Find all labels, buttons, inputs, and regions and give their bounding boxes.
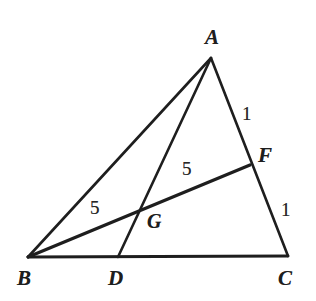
vertex-label-a: A	[205, 27, 219, 48]
measure-label-gf: 5	[182, 159, 192, 178]
measure-label-bg: 5	[90, 198, 100, 217]
segment-bc	[28, 256, 288, 257]
geometry-figure: A B C D F G 5 5 1 1	[0, 0, 316, 301]
vertex-label-b: B	[17, 268, 31, 289]
segment-ad-cevian	[118, 58, 211, 257]
vertex-label-c: C	[278, 268, 292, 289]
point-label-d: D	[108, 268, 123, 289]
measure-label-af: 1	[242, 104, 252, 123]
point-label-g: G	[147, 211, 161, 231]
measure-label-fc: 1	[281, 200, 291, 219]
segment-ac	[211, 58, 288, 256]
segment-bf-cevian	[28, 165, 250, 257]
point-label-f: F	[258, 145, 272, 166]
